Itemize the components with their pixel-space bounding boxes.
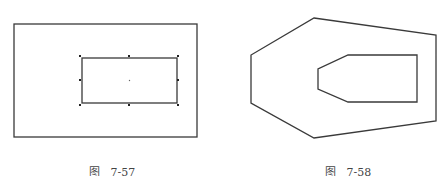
- figure-canvas: [0, 0, 448, 176]
- figure-7-57: [14, 24, 197, 137]
- grip-top-left[interactable]: [79, 55, 81, 57]
- grip-bottom-left[interactable]: [79, 104, 81, 106]
- caption-prefix: 图: [89, 166, 100, 176]
- caption-number: 7-57: [111, 166, 136, 176]
- figure-7-58: [251, 18, 436, 138]
- caption-number: 7-58: [347, 166, 372, 176]
- outer-rectangle: [14, 24, 197, 137]
- grip-bottom-middle[interactable]: [128, 104, 130, 106]
- grip-middle-right[interactable]: [177, 79, 179, 81]
- grip-bottom-right[interactable]: [177, 104, 179, 106]
- inner-offset-polygon: [318, 55, 417, 102]
- caption-figure-7-58: 图 7-58: [318, 150, 371, 176]
- grip-top-middle[interactable]: [128, 55, 130, 57]
- outer-hexagon: [251, 18, 436, 138]
- center-point: [129, 80, 130, 81]
- grip-middle-left[interactable]: [79, 79, 81, 81]
- caption-figure-7-57: 图 7-57: [82, 150, 135, 176]
- selection-grips: [79, 55, 179, 106]
- grip-top-right[interactable]: [177, 55, 179, 57]
- caption-prefix: 图: [325, 166, 336, 176]
